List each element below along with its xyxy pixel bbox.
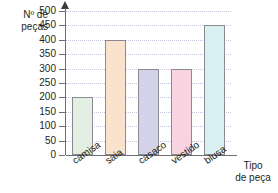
y-axis-tick — [59, 141, 65, 142]
bar — [204, 25, 225, 155]
y-axis-tick-label: 300 — [22, 64, 56, 74]
y-axis-tick — [59, 25, 65, 26]
y-axis-tick-label: 200 — [22, 92, 56, 102]
y-axis-tick — [59, 40, 65, 41]
y-axis-tick — [59, 97, 65, 98]
y-axis-tick — [59, 126, 65, 127]
x-axis-title: Tipo de peça — [228, 160, 278, 184]
y-axis-tick-label: 250 — [22, 78, 56, 88]
y-axis-tick-label: 400 — [22, 35, 56, 45]
y-axis-tick-label: 0 — [22, 150, 56, 160]
y-axis-tick — [59, 54, 65, 55]
y-axis-tick — [59, 83, 65, 84]
y-axis-tick-label: 50 — [22, 136, 56, 146]
y-axis-tick-label: 500 — [22, 6, 56, 16]
y-axis-tick — [59, 11, 65, 12]
y-axis-tick-label: 350 — [22, 49, 56, 59]
y-axis-tick-label: 100 — [22, 121, 56, 131]
gridline — [66, 11, 231, 12]
y-axis-tick — [59, 112, 65, 113]
y-axis-tick — [59, 155, 65, 156]
plot-area — [66, 11, 231, 155]
y-axis-tick-label: 150 — [22, 107, 56, 117]
bar — [105, 40, 126, 155]
y-axis-tick-label: 450 — [22, 20, 56, 30]
y-axis-tick — [59, 69, 65, 70]
bar-chart: Nº de peças Tipo de peça 050100150200250… — [0, 0, 278, 193]
